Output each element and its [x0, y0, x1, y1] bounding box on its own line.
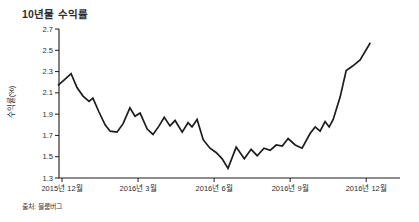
y-tick-label: 2.5 [43, 46, 53, 55]
x-tick-label: 2015년 12월 [41, 183, 82, 193]
x-tick-label: 2016년 12월 [346, 183, 387, 193]
y-tick-label: 1.9 [43, 110, 53, 119]
y-tick-label: 1.3 [43, 174, 53, 183]
x-tick-label: 2016년 6월 [196, 183, 233, 193]
y-tick-label: 1.7 [43, 131, 53, 140]
y-axis-label: 수익률(%) [6, 85, 16, 118]
y-tick-label: 2.3 [43, 67, 53, 76]
chart-panel: 10년물 수익률 수익률(%) 1.31.51.71.92.12.32.52.7… [0, 0, 419, 222]
axes: 1.31.51.71.92.12.32.52.72015년 12월2016년 3… [41, 25, 400, 193]
ten-year-yield-line-chart: 10년물 수익률 수익률(%) 1.31.51.71.92.12.32.52.7… [0, 0, 419, 222]
y-tick-label: 2.1 [43, 88, 53, 97]
y-tick-label: 2.7 [43, 25, 53, 34]
x-tick-label: 2016년 3월 [120, 183, 157, 193]
plot-series [58, 43, 370, 169]
chart-title: 10년물 수익률 [22, 8, 88, 20]
source-caption: 출처: 블룸버그 [22, 202, 63, 211]
y-tick-label: 1.5 [43, 152, 53, 161]
x-tick-label: 2016년 9월 [272, 183, 309, 193]
axis-spine [59, 29, 400, 178]
yield-line [58, 43, 370, 169]
